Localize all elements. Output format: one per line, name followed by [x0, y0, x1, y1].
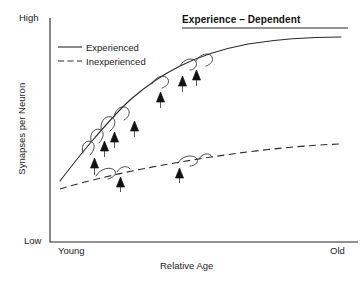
chart-canvas: [0, 0, 364, 282]
y-axis-bottom-label: Low: [24, 236, 41, 246]
y-axis-title: Synapses per Neuron: [17, 64, 27, 194]
arrow-up-experienced-3: [111, 132, 119, 148]
arrow-up-experienced-7: [193, 70, 201, 86]
arrow-up-inexperienced-2: [176, 168, 184, 183]
arrow-up-experienced-4: [131, 121, 139, 137]
arrow-up-experienced-1: [91, 158, 99, 175]
overshoot-loop-inexperienced-2: [117, 167, 130, 172]
arrow-up-experienced-6: [179, 76, 187, 92]
chart-title: Experience – Dependent: [182, 14, 300, 25]
x-axis-title: Relative Age: [160, 261, 213, 271]
overshoot-loop-experienced-1: [82, 141, 94, 155]
arrow-up-experienced-2: [101, 141, 109, 157]
x-axis-right-label: Old: [330, 246, 345, 256]
chart-figure: Experience – Dependent High Low Synapses…: [0, 0, 364, 282]
arrow-up-inexperienced-1: [117, 177, 125, 192]
legend-label-experienced: Experienced: [86, 43, 139, 53]
y-axis-top-label: High: [19, 13, 39, 23]
overshoot-loop-experienced-5: [152, 76, 169, 88]
legend-label-inexperienced: Inexperienced: [86, 57, 146, 67]
x-axis-left-label: Young: [58, 246, 85, 256]
arrow-up-experienced-5: [157, 92, 165, 108]
